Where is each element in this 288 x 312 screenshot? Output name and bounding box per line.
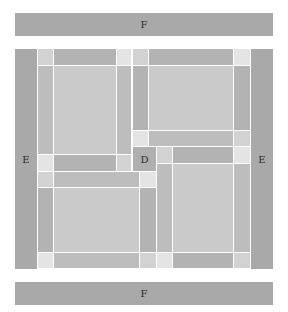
bottom-frame-label: F	[141, 288, 148, 299]
ur-corner-br	[234, 131, 250, 146]
ll-side-right	[140, 188, 156, 252]
lr-corner-tr	[234, 147, 250, 163]
ul-side-left	[38, 66, 53, 154]
right-frame-e: E	[251, 49, 273, 269]
left-frame-e: E	[15, 49, 37, 269]
ll-corner-tr	[140, 172, 156, 187]
lr-bar-bottom	[173, 253, 233, 268]
right-frame-label: E	[258, 154, 265, 165]
top-frame-label: F	[141, 19, 148, 30]
ur-corner-tl	[133, 49, 148, 65]
ul-center	[54, 66, 116, 154]
lr-corner-bl	[157, 253, 172, 268]
center-cell-d: D	[133, 147, 156, 171]
ll-side-left	[38, 188, 53, 252]
ll-bar-top	[54, 172, 139, 187]
ll-center	[54, 188, 139, 252]
ur-side-left	[133, 66, 148, 130]
left-frame-label: E	[22, 154, 29, 165]
ll-corner-br	[140, 253, 156, 268]
ll-bar-bottom	[54, 253, 139, 268]
bottom-frame-f: F	[15, 282, 273, 305]
lr-center	[173, 164, 233, 252]
top-frame-f: F	[15, 13, 273, 36]
ur-corner-tr	[234, 49, 250, 65]
ul-side-right	[117, 66, 131, 154]
lr-corner-br	[234, 253, 250, 268]
ur-side-right	[234, 66, 250, 130]
ll-corner-tl	[38, 172, 53, 187]
ul-bar-top	[54, 49, 116, 65]
lr-bar-top	[173, 147, 233, 163]
ul-bar-bottom	[54, 155, 116, 171]
ur-bar-bottom	[149, 131, 233, 146]
center-label: D	[140, 154, 148, 165]
ul-corner-bl	[38, 155, 53, 171]
lr-side-right	[234, 164, 250, 252]
ur-center	[149, 66, 233, 130]
ul-corner-tl	[38, 49, 53, 65]
ur-corner-bl	[133, 131, 148, 146]
ur-bar-top	[149, 49, 233, 65]
ul-corner-br	[117, 155, 131, 171]
ll-corner-bl	[38, 253, 53, 268]
ul-corner-tr	[117, 49, 131, 65]
lr-corner-tl	[157, 147, 172, 163]
lr-side-left	[157, 164, 172, 252]
